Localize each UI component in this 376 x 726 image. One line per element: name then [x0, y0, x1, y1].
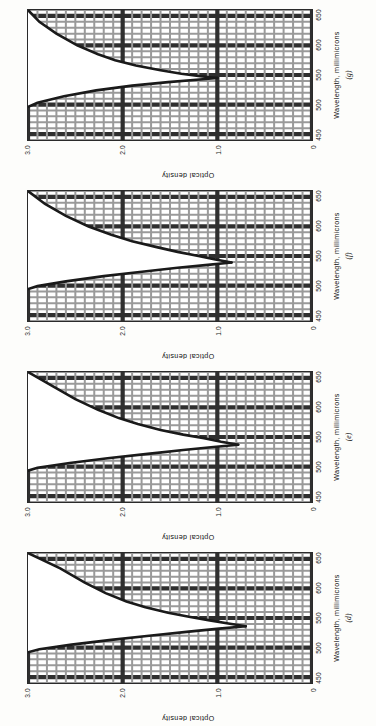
x-axis-ticks: 450500550600650: [315, 371, 327, 503]
plot-area: [27, 371, 313, 503]
y-tick-label: 0: [310, 326, 317, 330]
panel-label: (e): [344, 371, 353, 503]
rotated-chart-container: 01.02.03.0450500550600650Optical density…: [23, 367, 353, 537]
x-tick-label: 600: [315, 582, 322, 594]
y-tick-label: 1.0: [214, 688, 221, 698]
y-tick-label: 2.0: [119, 326, 126, 336]
x-tick-label: 550: [315, 431, 322, 443]
y-tick-label: 3.0: [24, 145, 31, 155]
chart-panel-e: 01.02.03.0450500550600650Optical density…: [0, 362, 376, 543]
x-tick-label: 650: [315, 552, 322, 564]
y-tick-label: 2.0: [119, 507, 126, 517]
y-axis-title: Optical density: [162, 171, 214, 180]
plot-area: [27, 190, 313, 322]
y-tick-label: 0: [310, 688, 317, 692]
rotated-chart-container: 01.02.03.0450500550600650Optical density…: [23, 5, 353, 175]
chart-panel-f: 01.02.03.0450500550600650Optical density…: [0, 181, 376, 362]
x-tick-label: 550: [315, 250, 322, 262]
x-tick-label: 450: [315, 310, 322, 322]
plot-area: [27, 9, 313, 141]
y-tick-label: 0: [310, 145, 317, 149]
x-tick-label: 450: [315, 129, 322, 141]
x-tick-label: 500: [315, 642, 322, 654]
figure-sheet: 01.02.03.0450500550600650Optical density…: [0, 0, 376, 726]
chart: 01.02.03.0450500550600650Optical density…: [23, 5, 353, 175]
x-tick-label: 500: [315, 280, 322, 292]
x-tick-label: 500: [315, 99, 322, 111]
y-tick-label: 1.0: [214, 145, 221, 155]
absorption-curve: [28, 191, 312, 321]
y-axis-title: Optical density: [162, 533, 214, 542]
y-tick-label: 1.0: [214, 326, 221, 336]
absorption-curve: [28, 372, 312, 502]
plot-frame: [27, 190, 313, 322]
x-tick-label: 500: [315, 461, 322, 473]
x-tick-label: 550: [315, 69, 322, 81]
y-tick-label: 3.0: [24, 688, 31, 698]
x-tick-label: 600: [315, 39, 322, 51]
x-tick-label: 600: [315, 401, 322, 413]
chart: 01.02.03.0450500550600650Optical density…: [23, 186, 353, 356]
rotated-chart-container: 01.02.03.0450500550600650Optical density…: [23, 186, 353, 356]
y-tick-label: 3.0: [24, 507, 31, 517]
x-axis-title: Wavelength, millimicrons: [332, 371, 341, 503]
x-tick-label: 600: [315, 220, 322, 232]
panel-label: (f): [344, 190, 353, 322]
rotated-chart-container: 01.02.03.0450500550600650Optical density…: [23, 548, 353, 718]
x-axis-title: Wavelength, millimicrons: [332, 9, 341, 141]
y-tick-label: 2.0: [119, 688, 126, 698]
panel-label: (d): [344, 552, 353, 684]
panel-label: (g): [344, 9, 353, 141]
y-tick-label: 3.0: [24, 326, 31, 336]
x-axis-ticks: 450500550600650: [315, 552, 327, 684]
x-axis-ticks: 450500550600650: [315, 190, 327, 322]
x-tick-label: 450: [315, 672, 322, 684]
x-tick-label: 650: [315, 190, 322, 202]
x-tick-label: 450: [315, 491, 322, 503]
x-axis-title: Wavelength, millimicrons: [332, 552, 341, 684]
chart: 01.02.03.0450500550600650Optical density…: [23, 548, 353, 718]
x-tick-label: 650: [315, 371, 322, 383]
chart-panel-d: 01.02.03.0450500550600650Optical density…: [0, 543, 376, 724]
absorption-curve: [28, 553, 312, 683]
x-tick-label: 650: [315, 9, 322, 21]
plot-frame: [27, 9, 313, 141]
x-tick-label: 550: [315, 612, 322, 624]
y-axis-title: Optical density: [162, 352, 214, 361]
chart-panel-g: 01.02.03.0450500550600650Optical density…: [0, 0, 376, 181]
y-axis-title: Optical density: [162, 714, 214, 723]
x-axis-title: Wavelength, millimicrons: [332, 190, 341, 322]
x-axis-ticks: 450500550600650: [315, 9, 327, 141]
plot-area: [27, 552, 313, 684]
plot-frame: [27, 371, 313, 503]
plot-frame: [27, 552, 313, 684]
y-tick-label: 1.0: [214, 507, 221, 517]
chart: 01.02.03.0450500550600650Optical density…: [23, 367, 353, 537]
absorption-curve: [28, 10, 312, 140]
y-tick-label: 0: [310, 507, 317, 511]
y-tick-label: 2.0: [119, 145, 126, 155]
